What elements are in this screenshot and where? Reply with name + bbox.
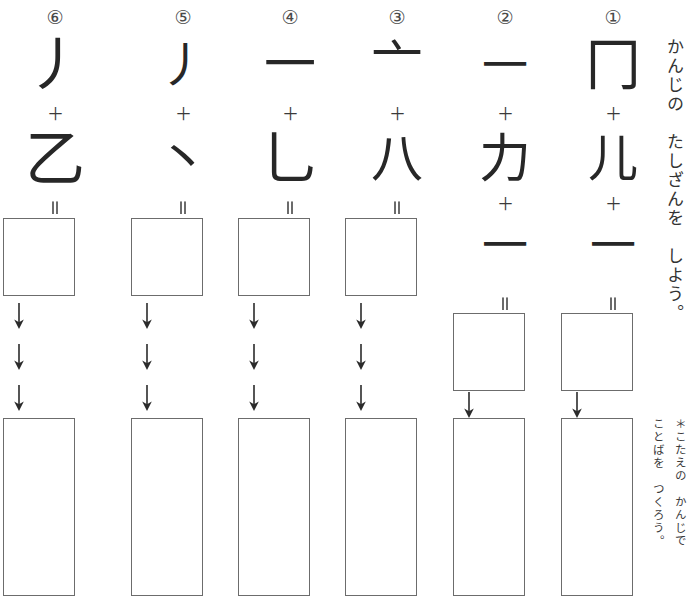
answer-kanji-box[interactable] bbox=[3, 218, 75, 296]
kanji-component-2: 丶 bbox=[128, 128, 238, 190]
down-arrow-icon bbox=[199, 302, 309, 332]
problem-number-label: ① bbox=[558, 6, 668, 28]
word-answer-box[interactable] bbox=[345, 418, 417, 596]
problem-number-label: ⑤ bbox=[128, 6, 238, 28]
equals-operator bbox=[235, 201, 345, 216]
equals-operator bbox=[128, 201, 238, 216]
down-arrow-icon bbox=[199, 343, 309, 373]
kanji-component-1: 冂 bbox=[558, 34, 668, 96]
plus-operator-1: ＋ bbox=[450, 106, 560, 123]
answer-kanji-box[interactable] bbox=[453, 313, 525, 391]
kanji-component-1: 丿 bbox=[0, 34, 110, 96]
kanji-component-3: 一 bbox=[450, 216, 560, 274]
down-arrow-icon bbox=[306, 302, 416, 332]
kanji-component-2: 乚 bbox=[235, 128, 345, 190]
problem-number-label: ③ bbox=[342, 6, 452, 28]
down-arrow-icon bbox=[0, 302, 74, 332]
problem-number-label: ② bbox=[450, 6, 560, 28]
down-arrow-icon bbox=[0, 343, 74, 373]
plus-operator-2: ＋ bbox=[450, 196, 560, 213]
word-answer-box[interactable] bbox=[238, 418, 310, 596]
kanji-component-2: 力 bbox=[450, 128, 560, 190]
answer-kanji-box[interactable] bbox=[561, 313, 633, 391]
kanji-component-2: 八 bbox=[342, 128, 452, 190]
problem-column-2: ②一＋力＋一 bbox=[450, 0, 560, 588]
equals-operator bbox=[342, 201, 452, 216]
plus-operator-1: ＋ bbox=[342, 106, 452, 123]
kanji-component-1: 亠 bbox=[342, 34, 452, 96]
down-arrow-icon bbox=[92, 302, 202, 332]
problem-number-label: ⑥ bbox=[0, 6, 110, 28]
kanji-component-2: 乙 bbox=[0, 128, 110, 190]
plus-operator-1: ＋ bbox=[235, 106, 345, 123]
plus-operator-1: ＋ bbox=[558, 106, 668, 123]
down-arrow-icon bbox=[306, 343, 416, 373]
kanji-component-2: 儿 bbox=[558, 128, 668, 190]
answer-kanji-box[interactable] bbox=[345, 218, 417, 296]
kanji-component-1: 一 bbox=[450, 34, 560, 96]
plus-operator-1: ＋ bbox=[128, 106, 238, 123]
problem-column-3: ③亠＋八 bbox=[342, 0, 452, 588]
answer-kanji-box[interactable] bbox=[131, 218, 203, 296]
note-line-1: ＊こたえの かんじで bbox=[669, 418, 691, 586]
kanji-component-1: 一 bbox=[235, 34, 345, 96]
down-arrow-icon bbox=[92, 343, 202, 373]
problem-column-4: ④一＋乚 bbox=[235, 0, 345, 588]
problem-column-5: ⑤丿＋丶 bbox=[128, 0, 238, 588]
down-arrow-icon bbox=[306, 384, 416, 414]
down-arrow-icon bbox=[0, 384, 74, 414]
kanji-component-1: 丿 bbox=[128, 34, 238, 96]
plus-operator-1: ＋ bbox=[0, 106, 110, 123]
down-arrow-icon bbox=[522, 391, 632, 421]
equals-operator bbox=[0, 201, 110, 216]
equals-operator bbox=[450, 297, 560, 312]
problem-column-6: ⑥丿＋乙 bbox=[0, 0, 110, 588]
word-answer-box[interactable] bbox=[3, 418, 75, 596]
problem-number-label: ④ bbox=[235, 6, 345, 28]
equals-operator bbox=[558, 297, 668, 312]
answer-kanji-box[interactable] bbox=[238, 218, 310, 296]
plus-operator-2: ＋ bbox=[558, 196, 668, 213]
down-arrow-icon bbox=[414, 391, 524, 421]
word-answer-box[interactable] bbox=[453, 418, 525, 596]
word-answer-box[interactable] bbox=[131, 418, 203, 596]
down-arrow-icon bbox=[92, 384, 202, 414]
problem-column-1: ①冂＋儿＋一 bbox=[558, 0, 668, 588]
word-answer-box[interactable] bbox=[561, 418, 633, 596]
down-arrow-icon bbox=[199, 384, 309, 414]
kanji-component-3: 一 bbox=[558, 216, 668, 274]
